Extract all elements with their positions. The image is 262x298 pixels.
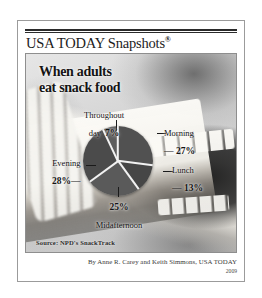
pie-label-midafternoon: 25% Midafternoon (76, 196, 162, 231)
pie-value-morning: — 27% (164, 146, 195, 156)
pie-label-throughout-day-name-line2: day (89, 128, 101, 138)
headline-line-2: eat snack food (39, 80, 120, 96)
pie-label-lunch: Lunch — 13% (172, 159, 203, 194)
pie-label-lunch-name: Lunch (172, 165, 194, 175)
pie-value-evening: 28%— (52, 176, 81, 186)
pie-value-throughout-day: 7% (105, 128, 119, 138)
pie-label-evening: Evening 28%— (52, 152, 81, 187)
headline: When adults eat snack food (39, 64, 120, 96)
infographic-panel: When adults eat snack food Throughout da… (25, 53, 237, 253)
byline-year: 2009 (25, 268, 237, 274)
pie-label-midafternoon-name: Midafternoon (96, 220, 143, 230)
masthead: USA TODAY Snapshots® (25, 29, 237, 53)
source-note: Source: NPD's SnackTrack (36, 239, 115, 246)
headline-line-1: When adults (39, 64, 120, 80)
page-title: USA TODAY Snapshots® (25, 33, 237, 53)
pie-label-morning-name: Morning (164, 128, 194, 138)
registered-trademark-icon: ® (165, 35, 171, 44)
leader-line-evening (86, 165, 96, 166)
pie-label-throughout-day: Throughout day 7% (84, 104, 124, 139)
snapshot-clipping: USA TODAY Snapshots® When adults eat sna… (0, 0, 262, 298)
pie-label-morning: Morning — 27% (164, 122, 195, 157)
masthead-title-text: USA TODAY Snapshots (26, 35, 165, 51)
pie-label-throughout-day-name-line1: Throughout (84, 110, 124, 120)
pie-value-lunch: — 13% (172, 183, 203, 193)
byline: By Anne R. Carey and Keith Simmons, USA … (25, 258, 237, 265)
pie-label-evening-name: Evening (52, 158, 80, 168)
pie-value-midafternoon: 25% (110, 202, 129, 212)
